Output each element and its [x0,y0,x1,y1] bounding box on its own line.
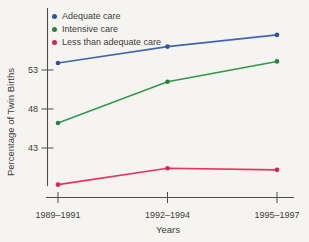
data-point-intensive-care [165,79,170,84]
y-tick-label: 48 [28,104,38,114]
data-point-less-than-adequate-care [165,166,170,171]
x-tick-label: 1992–1994 [145,210,190,220]
x-axis-title: Years [156,224,180,235]
y-axis-title: Percentage of Twin Births [5,68,16,176]
data-point-adequate-care [275,33,280,38]
data-point-adequate-care [56,61,61,66]
y-tick-label: 43 [28,143,38,153]
data-point-intensive-care [275,59,280,64]
legend-item-intensive-care: Intensive care [52,23,161,36]
series-line-less-than-adequate-care [58,168,277,184]
legend-label-intensive-care: Intensive care [62,25,118,34]
legend-item-less-than-adequate-care: Less than adequate care [52,36,161,49]
x-tick-label: 1995–1997 [254,210,299,220]
data-point-adequate-care [165,44,170,49]
legend-label-adequate-care: Adequate care [62,12,121,21]
legend-marker-adequate-care-icon [52,14,57,19]
legend-label-less-than-adequate-care: Less than adequate care [62,38,161,47]
x-tick-label: 1989–1991 [35,210,80,220]
chart-legend: Adequate care Intensive care Less than a… [52,10,161,49]
legend-marker-intensive-care-icon [52,27,57,32]
series-line-intensive-care [58,61,277,123]
legend-marker-less-than-adequate-care-icon [52,40,57,45]
data-point-less-than-adequate-care [275,168,280,173]
data-point-less-than-adequate-care [56,182,61,187]
legend-item-adequate-care: Adequate care [52,10,161,23]
data-point-intensive-care [56,121,61,126]
y-tick-label: 53 [28,65,38,75]
twin-births-line-chart: 4348531989–19911992–19941995–1997 Percen… [0,0,309,242]
